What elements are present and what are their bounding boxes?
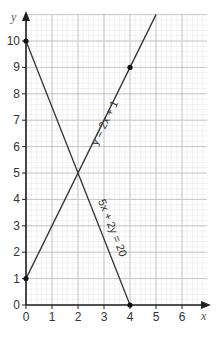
axes (22, 11, 211, 309)
data-point (23, 38, 28, 43)
x-tick-label: 3 (101, 310, 108, 324)
data-point (127, 302, 132, 307)
y-tick-label: 7 (13, 113, 20, 127)
y-tick-label: 6 (13, 140, 20, 154)
x-tick-label: 5 (153, 310, 160, 324)
x-tick-label: 2 (75, 310, 82, 324)
data-point (23, 276, 28, 281)
y-tick-label: 4 (13, 192, 20, 206)
x-tick-label: 6 (179, 310, 186, 324)
data-point (127, 65, 132, 70)
y-tick-label: 0 (13, 298, 20, 312)
minor-grid (26, 15, 207, 305)
chart: 0123456012345678910 y x y = 2x + 1 5x + … (0, 0, 220, 340)
major-grid (26, 15, 207, 305)
y-tick-label: 5 (13, 166, 20, 180)
y-tick-label: 8 (13, 87, 20, 101)
y-tick-label: 2 (13, 245, 20, 259)
y-tick-label: 10 (7, 34, 21, 48)
x-axis-label: x (200, 309, 207, 323)
x-tick-label: 1 (49, 310, 56, 324)
x-tick-label: 0 (23, 310, 30, 324)
y-axis-label: y (10, 10, 17, 24)
line-label-5x-plus-2y-equals-20: 5x + 2y = 20 (96, 197, 129, 258)
y-tick-label: 9 (13, 60, 20, 74)
tick-labels: 0123456012345678910 (7, 34, 186, 324)
y-tick-label: 3 (13, 219, 20, 233)
series-lines (26, 15, 156, 305)
x-tick-label: 4 (127, 310, 134, 324)
y-tick-label: 1 (13, 272, 20, 286)
